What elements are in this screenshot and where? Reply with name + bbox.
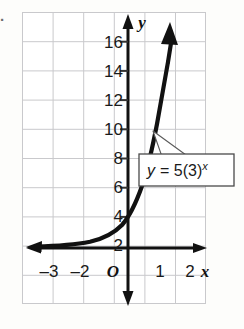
y-axis-label: y — [136, 13, 146, 32]
y-tick-label-8: 8 — [114, 149, 123, 168]
exponential-graph-figure: . — [0, 0, 244, 329]
x-tick-label-neg2: –2 — [71, 262, 90, 281]
equation-callout-box: y= 5(3)x — [139, 154, 234, 186]
origin-label: O — [107, 262, 119, 281]
x-axis-label: x — [200, 262, 210, 281]
equation-exponent: x — [201, 160, 208, 172]
x-tick-label-1: 1 — [155, 262, 164, 281]
y-tick-label-2: 2 — [114, 236, 123, 255]
equation-body: = 5(3) — [160, 162, 202, 179]
y-tick-label-12: 12 — [104, 91, 123, 110]
graph-svg: 16 14 12 10 8 6 4 2 –3 –2 1 2 O x y — [0, 0, 244, 329]
y-tick-label-10: 10 — [104, 120, 123, 139]
x-tick-label-2: 2 — [185, 262, 194, 281]
equation-lhs: y — [146, 162, 156, 179]
y-tick-label-14: 14 — [104, 62, 123, 81]
x-tick-label-neg3: –3 — [40, 262, 59, 281]
y-tick-label-6: 6 — [114, 178, 123, 197]
y-tick-label-16: 16 — [104, 33, 123, 52]
